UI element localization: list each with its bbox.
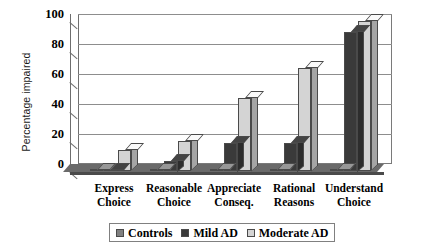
legend-swatch-icon <box>181 229 189 237</box>
y-tick-label-60: 60 <box>30 68 64 81</box>
bar <box>210 170 223 172</box>
legend-label: Mild AD <box>193 227 237 239</box>
y-tick-label-0: 0 <box>30 158 64 171</box>
bar <box>270 170 283 172</box>
bar-side <box>371 15 378 171</box>
x-axis-label-line: Understand <box>317 182 391 196</box>
y-tick-label-20: 20 <box>30 128 64 141</box>
bar-top <box>305 61 324 68</box>
y-tick-label-100: 100 <box>30 8 64 21</box>
bar <box>344 32 357 172</box>
bar-top <box>365 14 384 21</box>
y-tick-label-40: 40 <box>30 98 64 111</box>
x-axis-labels: ExpressChoiceReasonableChoiceAppreciateC… <box>70 182 400 216</box>
bar <box>90 170 103 172</box>
x-axis-label-5: UnderstandChoice <box>317 182 391 209</box>
chart-legend: ControlsMild ADModerate AD <box>109 223 335 242</box>
y-tick-label-80: 80 <box>30 38 64 51</box>
legend-swatch-icon <box>247 229 255 237</box>
bar <box>330 170 343 172</box>
bar-chart: Percentage impaired 100806040200 Express… <box>0 0 422 251</box>
bar-top <box>185 134 204 141</box>
bar-side <box>357 25 364 171</box>
y-axis-tick-labels: 100806040200 <box>30 12 64 178</box>
legend-label: Controls <box>128 227 172 239</box>
bar-face <box>344 32 357 172</box>
x-axis-label-line: Choice <box>317 196 391 210</box>
bar-side <box>311 61 318 171</box>
bar-side <box>251 91 258 171</box>
legend-swatch-icon <box>116 229 124 237</box>
bars-layer <box>70 14 392 174</box>
bar-top <box>125 143 144 150</box>
legend-item-controls[interactable]: Controls <box>116 227 172 239</box>
legend-item-moderate-ad[interactable]: Moderate AD <box>247 227 329 239</box>
legend-item-mild-ad[interactable]: Mild AD <box>181 227 237 239</box>
legend-label: Moderate AD <box>259 227 329 239</box>
bar <box>150 170 163 172</box>
bar-top <box>245 91 264 98</box>
